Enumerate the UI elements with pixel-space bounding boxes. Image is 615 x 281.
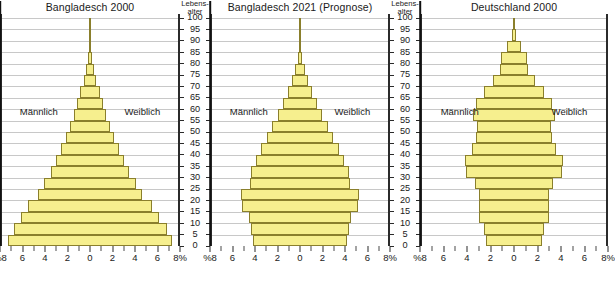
- bar-male: [253, 235, 301, 246]
- bar-row: [420, 223, 608, 234]
- age-tick-label: 40: [190, 150, 200, 159]
- bar-male: [465, 155, 516, 166]
- age-tick-mark-left: [390, 109, 394, 110]
- bar-male: [51, 166, 92, 177]
- bar-row: [420, 41, 608, 52]
- x-tick-label: 0: [511, 252, 516, 263]
- plot-area: Männlich Weiblich: [210, 18, 390, 246]
- bar-row: [0, 212, 180, 223]
- bar-female: [515, 178, 554, 189]
- bar-row: [0, 235, 180, 246]
- bar-row: [210, 52, 390, 63]
- bar-row: [210, 75, 390, 86]
- age-tick-mark-left: [180, 234, 184, 235]
- x-tick-minor: [33, 246, 34, 251]
- bar-female: [514, 109, 555, 120]
- age-tick-mark-left: [390, 200, 394, 201]
- panel-title: Bangladesch 2000: [0, 1, 180, 13]
- bar-row: [210, 64, 390, 75]
- bar-male: [475, 178, 515, 189]
- age-tick-label: 55: [400, 116, 410, 125]
- bar-male: [288, 86, 300, 97]
- x-tick-label: 2: [320, 252, 325, 263]
- age-tick-mark-left: [390, 97, 394, 98]
- bar-female: [515, 235, 542, 246]
- legend-male: Männlich: [441, 106, 479, 117]
- age-tick-mark-left: [390, 40, 394, 41]
- age-tick-label: 10: [190, 218, 200, 227]
- age-tick-mark-left: [180, 75, 184, 76]
- age-tick-mark-left: [390, 86, 394, 87]
- x-tick-label: 6: [365, 252, 370, 263]
- bar-female: [91, 132, 115, 143]
- x-tick-label: 6: [20, 252, 25, 263]
- age-tick-label: 95: [190, 24, 200, 33]
- bar-male: [476, 98, 514, 109]
- bar-female: [91, 166, 129, 177]
- age-tick-label: 85: [400, 47, 410, 56]
- x-tick-label: 4: [464, 252, 469, 263]
- age-tick-label: 80: [400, 59, 410, 68]
- age-tick-label: 70: [190, 81, 200, 90]
- zero-axis: [0, 1, 1, 246]
- axis-frame-right: [606, 14, 608, 246]
- x-tick-minor: [146, 246, 147, 251]
- bar-female: [90, 52, 92, 63]
- bar-female: [301, 223, 349, 234]
- age-tick-mark-left: [180, 200, 184, 201]
- bar-male: [472, 143, 514, 154]
- age-tick-label: 65: [400, 93, 410, 102]
- bars-group: [0, 18, 180, 246]
- bar-male: [479, 189, 514, 200]
- age-tick-label: 90: [400, 36, 410, 45]
- legend-male: Männlich: [230, 106, 268, 117]
- x-tick-minor: [11, 246, 12, 251]
- age-tick-mark-left: [390, 177, 394, 178]
- age-tick-label: 35: [190, 161, 200, 170]
- bar-male: [283, 98, 300, 109]
- bar-row: [0, 189, 180, 200]
- age-tick-label: 20: [400, 195, 410, 204]
- bar-male: [66, 132, 91, 143]
- x-tick-minor: [266, 246, 267, 251]
- bar-male: [250, 178, 301, 189]
- bar-female: [301, 132, 334, 143]
- bar-row: [210, 121, 390, 132]
- chart-panel-bangladesch-2000: Bangladesch 2000 Männlich Weiblich %8642…: [0, 0, 180, 281]
- x-tick-minor: [572, 246, 573, 251]
- bar-row: [210, 132, 390, 143]
- age-tick-mark-left: [390, 234, 394, 235]
- bar-row: [210, 200, 390, 211]
- bar-row: [0, 143, 180, 154]
- age-tick-label: 90: [190, 36, 200, 45]
- bar-row: [0, 166, 180, 177]
- x-tick-label: 2: [535, 252, 540, 263]
- bar-male: [484, 223, 515, 234]
- bar-female: [511, 75, 535, 86]
- bar-female: [515, 166, 562, 177]
- bar-male: [251, 166, 301, 177]
- bar-row: [420, 52, 608, 63]
- bar-female: [91, 98, 103, 109]
- bar-female: [91, 212, 159, 223]
- bar-row: [420, 132, 608, 143]
- age-tick-mark-left: [390, 189, 394, 190]
- age-tick-label: 50: [190, 127, 200, 136]
- age-tick-label: 60: [190, 104, 200, 113]
- bar-female: [300, 52, 302, 63]
- age-tick-label: 50: [400, 127, 410, 136]
- age-tick-mark-left: [180, 132, 184, 133]
- bar-female: [91, 86, 100, 97]
- age-tick-label: 100: [397, 13, 412, 22]
- chart-panel-deutschland-2000: Deutschland 2000 Männlich Weiblich %8642…: [420, 0, 608, 281]
- x-tick-minor: [221, 246, 222, 251]
- age-tick-label: 75: [400, 70, 410, 79]
- age-tick-mark-left: [180, 86, 184, 87]
- x-tick-minor: [101, 246, 102, 251]
- bar-female: [515, 223, 544, 234]
- bar-row: [210, 29, 390, 40]
- bar-row: [0, 178, 180, 189]
- bar-female: [301, 178, 351, 189]
- x-tick-minor: [123, 246, 124, 251]
- bar-male: [61, 143, 90, 154]
